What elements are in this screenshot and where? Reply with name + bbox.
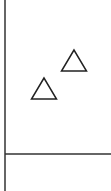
data-markers — [32, 50, 87, 99]
chart-canvas — [0, 0, 111, 191]
scatter-plot — [0, 0, 111, 191]
triangle-marker-icon — [62, 50, 87, 71]
triangle-marker-icon — [32, 78, 57, 99]
